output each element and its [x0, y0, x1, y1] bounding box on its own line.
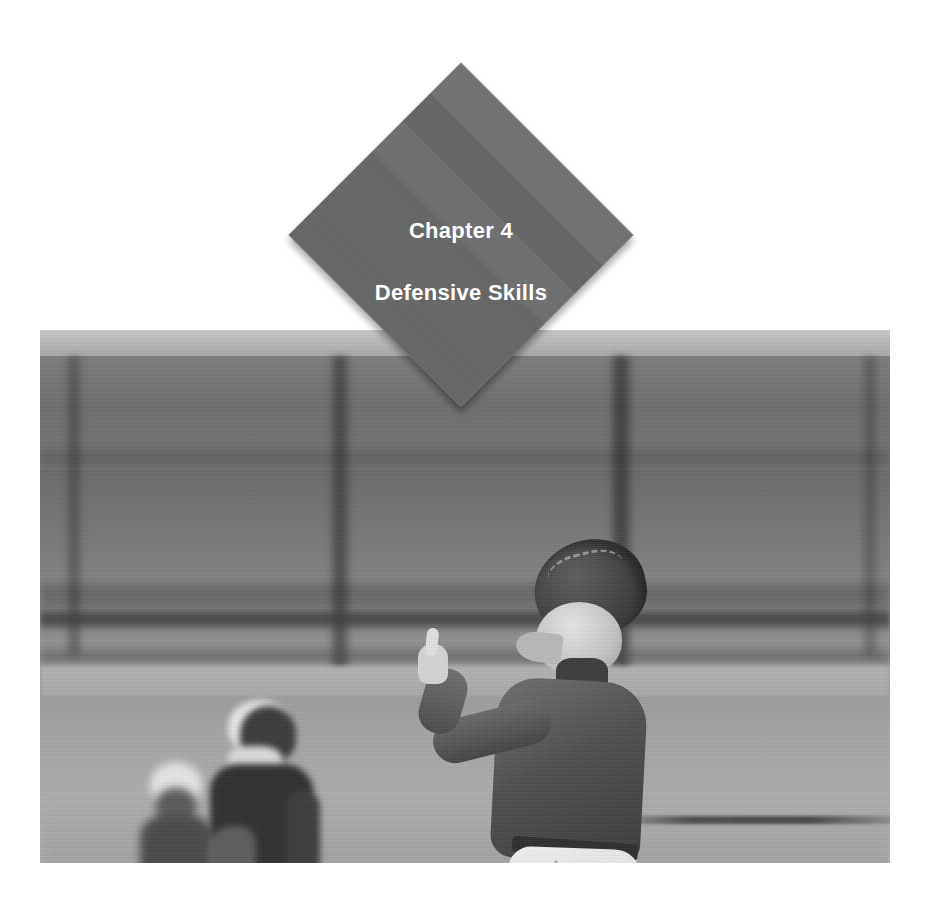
bg-catcher-glove: [208, 826, 256, 863]
fielder-cap-bill: [514, 629, 564, 665]
fence-rail-upper: [40, 450, 890, 466]
chapter-diamond-badge: Chapter 4 Defensive Skills: [288, 62, 634, 408]
bg-catcher-arm: [286, 790, 320, 863]
main-fielder: [440, 540, 700, 863]
baseball-fielder-photo: [40, 330, 890, 863]
chapter-number-label: Chapter 4: [409, 217, 513, 245]
background-player-catcher: [200, 700, 320, 863]
chapter-title: Defensive Skills: [375, 279, 547, 307]
chapter-opener-page: Chapter 4 Defensive Skills: [0, 0, 932, 903]
chapter-diamond-text: Chapter 4 Defensive Skills: [288, 62, 634, 408]
